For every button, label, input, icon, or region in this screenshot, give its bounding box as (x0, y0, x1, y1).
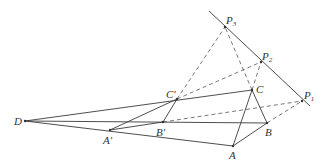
diagram-canvas: D A′ B′ C′ A B C P1 P2 P3 (0, 0, 325, 168)
label-A: A (228, 149, 236, 161)
label-B-prime: B′ (156, 126, 166, 138)
dash-B-P1 (267, 101, 302, 123)
edge-A-B (233, 123, 267, 146)
label-P3: P3 (225, 14, 237, 28)
svg-text:P3: P3 (225, 14, 237, 28)
point-P1 (301, 100, 303, 102)
label-C-prime: C′ (166, 88, 176, 100)
dash-C1-P3 (177, 27, 225, 99)
dash-C-P3 (225, 27, 252, 90)
label-B: B (265, 126, 272, 138)
point-B-prime (162, 121, 164, 123)
point-A-prime (109, 129, 111, 131)
label-P2: P2 (261, 50, 273, 64)
label-C: C (256, 83, 264, 95)
edge-A-C (233, 90, 252, 146)
label-D: D (13, 115, 22, 127)
svg-text:P1: P1 (303, 89, 314, 103)
svg-text:P2: P2 (261, 50, 273, 64)
point-A (232, 145, 234, 147)
ray-D-B (25, 121, 267, 123)
point-C-prime (176, 98, 178, 100)
point-B (266, 122, 268, 124)
ray-D-A (25, 121, 233, 146)
label-P1: P1 (303, 89, 314, 103)
point-D (24, 120, 26, 122)
point-C (251, 89, 253, 91)
desargues-diagram: D A′ B′ C′ A B C P1 P2 P3 (0, 0, 325, 168)
label-A-prime: A′ (102, 134, 113, 146)
dash-B1-P1 (163, 101, 302, 122)
point-P3 (224, 26, 226, 28)
